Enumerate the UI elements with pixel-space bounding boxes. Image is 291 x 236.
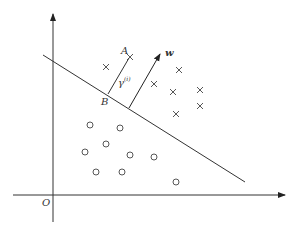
circle-marker — [127, 152, 133, 158]
normal-vector-arrow — [129, 54, 160, 108]
cross-marker — [176, 67, 182, 73]
circle-marker — [117, 125, 123, 131]
circle-marker — [119, 169, 125, 175]
cross-marker — [170, 89, 176, 95]
cross-marker — [173, 111, 179, 117]
point-b-label: B — [100, 96, 108, 107]
cross-marker — [103, 64, 109, 70]
separating-hyperplane — [43, 55, 245, 182]
circle-marker — [103, 141, 109, 147]
svm-margin-diagram: O A B w γ(i) — [0, 0, 291, 236]
point-a-label: A — [120, 45, 128, 56]
circle-marker — [173, 179, 179, 185]
cross-marker — [197, 103, 203, 109]
circle-marker — [151, 154, 157, 160]
origin-label: O — [42, 197, 50, 208]
gamma-superscript: (i) — [124, 75, 131, 82]
cross-marker — [197, 87, 203, 93]
normal-vector-label: w — [165, 47, 174, 58]
margin-label: γ(i) — [118, 75, 131, 88]
circle-marker — [93, 169, 99, 175]
circle-marker — [82, 149, 88, 155]
circle-marker — [87, 122, 93, 128]
cross-marker — [151, 81, 157, 87]
